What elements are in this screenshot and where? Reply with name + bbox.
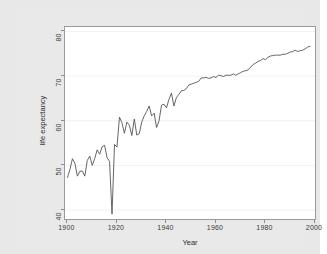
x-tick-mark — [165, 220, 166, 223]
x-tick-label: 1940 — [152, 224, 178, 231]
y-tick-label: 50 — [55, 163, 62, 181]
x-tick-label: 1980 — [251, 224, 277, 231]
x-tick-label: 2000 — [301, 224, 327, 231]
x-tick-label: 1900 — [53, 224, 79, 231]
gridlines-group — [65, 31, 315, 210]
y-tick-label: 60 — [55, 118, 62, 136]
x-axis-label: Year — [65, 238, 315, 247]
figure-inner-panel: 4050607080 190019201940196019802000 life… — [14, 8, 306, 246]
y-tick-label: 40 — [55, 208, 62, 226]
x-tick-label: 1920 — [103, 224, 129, 231]
x-tick-mark — [116, 220, 117, 223]
x-tick-label: 1960 — [202, 224, 228, 231]
x-tick-mark — [66, 220, 67, 223]
x-tick-mark — [264, 220, 265, 223]
life-expectancy-line — [67, 46, 310, 214]
line-chart-svg — [65, 27, 315, 219]
plot-area — [64, 26, 316, 220]
x-tick-mark — [314, 220, 315, 223]
y-tick-label: 80 — [55, 29, 62, 47]
y-tick-label: 70 — [55, 74, 62, 92]
x-tick-mark — [215, 220, 216, 223]
y-axis-label: life expectancy — [38, 81, 47, 161]
